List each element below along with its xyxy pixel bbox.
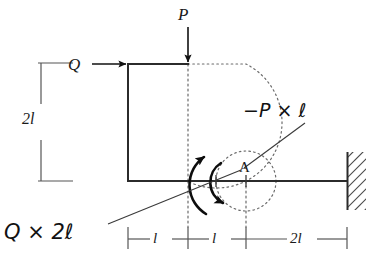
dimension-label-vertical-2l: 2l [22, 111, 34, 127]
point-label-A: A [239, 160, 250, 175]
outer-guide-arc [187, 64, 282, 188]
dimension-label-l-1: l [153, 231, 157, 246]
dimension-label-l-2: l [212, 231, 216, 246]
dimension-label-2l: 2l [290, 231, 302, 246]
moment-arrows [190, 157, 223, 214]
mechanics-figure: P Q 2l A −P × ℓ Q × 2ℓ l l 2l [0, 0, 380, 263]
leader-lines [108, 123, 305, 224]
dotted-moment-guides [187, 64, 282, 227]
dimension-vertical-2l [38, 63, 73, 181]
annotation-moment-from-P: −P × ℓ [243, 101, 306, 120]
annotation-moment-from-Q: Q × 2ℓ [4, 222, 74, 243]
leader-line-moment-P [244, 123, 305, 168]
load-label-Q: Q [68, 56, 80, 73]
beam-structure [128, 64, 347, 181]
load-label-P: P [178, 6, 188, 23]
dimension-horizontal-chain [128, 227, 347, 249]
